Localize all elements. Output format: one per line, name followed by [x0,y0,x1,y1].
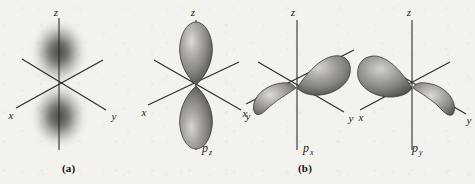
p-z-diagram: z x y p z [140,0,252,184]
panel-electron-cloud: z x y [0,0,140,184]
lobe-lower-left [254,83,297,115]
panel-p-y: z x y p y [350,0,475,184]
lobe-lower [180,86,213,149]
panel-p-x: z x y p x [240,0,358,184]
orbital-label-px: p [302,141,309,155]
axis-label-y: y [111,110,117,122]
lobe-upper [180,22,213,85]
caption-b: (b) [298,162,312,174]
axis-label-z: z [290,6,296,18]
p-y-diagram: z x y p y [350,0,475,184]
orbital-label-py: p [411,141,418,155]
orbital-figure: z x y [0,0,475,184]
orbital-subscript-py: y [418,148,423,157]
axis-label-x: x [242,107,248,119]
axis-label-x: x [8,109,14,121]
axis-label-z: z [53,6,59,18]
p-x-diagram: z x y p x [240,0,358,184]
axis-label-z: z [406,6,412,18]
lobe-upper-left [358,56,412,97]
axis-label-x: x [141,106,147,118]
orbital-label-pz: p [201,141,208,155]
caption-a: (a) [62,162,75,174]
axis-label-y: y [466,114,472,126]
orbital-subscript-pz: z [208,148,213,157]
lobe-upper-right [297,56,350,95]
axis-label-x: x [358,111,364,123]
axis-label-z: z [190,6,196,18]
lobe-lower-right [413,83,455,116]
orbital-subscript-px: x [309,148,314,157]
panel-p-z: z x y p z [140,0,252,184]
electron-cloud-diagram: z x y [0,0,140,184]
